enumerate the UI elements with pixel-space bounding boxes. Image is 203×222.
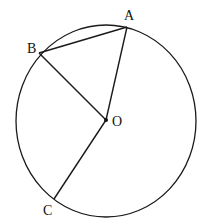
diagram-canvas: A B O C bbox=[0, 0, 203, 222]
center-point bbox=[104, 118, 108, 122]
label-b: B bbox=[27, 41, 36, 56]
circle-diagram: A B O C bbox=[0, 0, 203, 222]
segment-ao bbox=[106, 27, 127, 120]
label-o: O bbox=[112, 114, 122, 129]
label-a: A bbox=[124, 8, 135, 23]
segments bbox=[39, 27, 127, 199]
label-c: C bbox=[43, 203, 52, 218]
segment-bo bbox=[39, 53, 106, 120]
segment-oc bbox=[54, 120, 106, 199]
segment-ab bbox=[39, 27, 127, 53]
